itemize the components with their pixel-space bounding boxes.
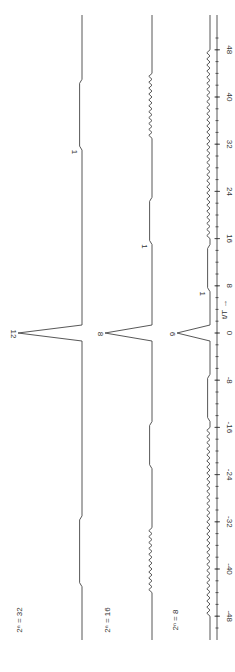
series-label: 2ⁿ = 8 xyxy=(171,609,180,630)
series-label: 2ⁿ = 16 xyxy=(103,607,112,633)
sidelobe-label: 1 xyxy=(198,291,207,296)
axis-tick-label: 24 xyxy=(225,187,234,196)
trace-3 xyxy=(177,15,210,640)
axis-tick-label: 48 xyxy=(225,45,234,54)
t-axis xyxy=(215,15,221,640)
correlation-chart: 1212ⁿ = 32812ⁿ = 16612ⁿ = 8484032241680-… xyxy=(0,0,235,672)
trace-1 xyxy=(18,15,82,640)
axis-tick-label: -32 xyxy=(225,516,234,528)
axis-tick-label: 16 xyxy=(225,234,234,243)
peak-label: 8 xyxy=(96,332,105,337)
axis-tick-label: 40 xyxy=(225,93,234,102)
axis-tick-label: 32 xyxy=(225,140,234,149)
axis-tick-label: 0 xyxy=(225,331,234,336)
sidelobe-label: 1 xyxy=(70,150,79,155)
peak-label: 6 xyxy=(168,332,177,337)
sidelobe-label: 1 xyxy=(140,244,149,249)
axis-tick-label: 8 xyxy=(225,284,234,289)
axis-tick-label: -24 xyxy=(225,469,234,481)
axis-title: t/T → xyxy=(220,300,229,319)
axis-tick-label: -8 xyxy=(225,377,234,385)
trace-2 xyxy=(105,15,152,640)
axis-tick-label: -40 xyxy=(225,563,234,575)
axis-tick-label: -16 xyxy=(225,422,234,434)
peak-label: 12 xyxy=(9,330,18,339)
series-label: 2ⁿ = 32 xyxy=(15,607,24,633)
axis-tick-label: -48 xyxy=(225,610,234,622)
